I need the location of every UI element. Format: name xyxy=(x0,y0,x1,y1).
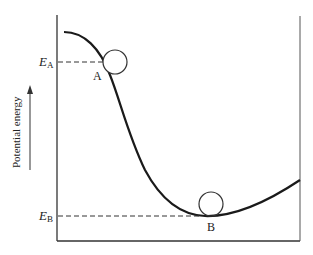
energy-curve xyxy=(64,32,300,216)
ball-b-icon xyxy=(199,192,223,216)
y-axis-label: Potential energy xyxy=(10,96,22,168)
point-label-a: A xyxy=(93,69,102,83)
point-label-b: B xyxy=(207,220,215,234)
ball-a-icon xyxy=(103,50,127,74)
level-label-b: EB xyxy=(38,208,53,224)
level-label-a: EA xyxy=(38,54,54,70)
up-arrow-icon xyxy=(27,85,33,170)
potential-energy-diagram: EA EB A B Potential energy xyxy=(0,0,313,255)
